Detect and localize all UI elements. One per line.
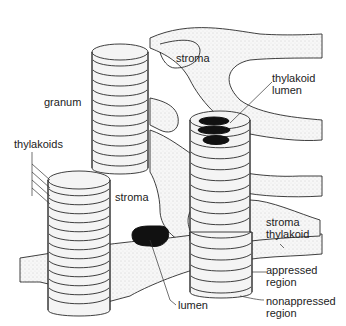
label-granum: granum	[44, 96, 81, 108]
granum-right-cutaway	[190, 111, 250, 246]
granum-bottom-right	[190, 232, 252, 298]
label-nonappressed-2: region	[266, 307, 297, 319]
label-thylakoids: thylakoids	[14, 138, 63, 150]
label-lumen: lumen	[178, 299, 208, 311]
label-appressed-2: region	[266, 276, 297, 288]
label-stroma-top: stroma	[176, 52, 210, 64]
label-nonappressed-1: nonappressed	[266, 295, 336, 307]
granum-bottom-left	[48, 171, 110, 316]
lumen-cross-section	[132, 226, 169, 247]
thylakoid-lumen-cutaway	[198, 117, 230, 145]
label-stroma-thylakoid-2: thylakoid	[266, 228, 309, 240]
label-thylakoid-lumen-2: lumen	[272, 84, 302, 96]
label-appressed-1: appressed	[266, 264, 317, 276]
granum-top-left	[92, 44, 148, 174]
label-thylakoid-lumen-1: thylakoid	[272, 72, 315, 84]
label-stroma-thylakoid-1: stroma	[266, 216, 300, 228]
label-stroma-middle: stroma	[115, 191, 149, 203]
